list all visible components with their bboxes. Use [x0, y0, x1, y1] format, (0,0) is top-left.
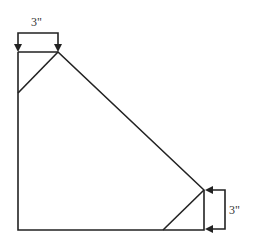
panel-outline	[18, 52, 204, 230]
arrow-left-icon	[205, 225, 213, 233]
top-dimension-label: 3"	[31, 15, 42, 29]
top-left-chamfer-line	[18, 52, 58, 93]
arrow-down-icon	[54, 44, 62, 52]
arrow-down-icon	[14, 44, 22, 52]
bottom-right-chamfer-line	[163, 190, 204, 230]
cut-diagram: 3" 3"	[0, 0, 264, 252]
right-dimension-label: 3"	[229, 203, 240, 217]
arrow-left-icon	[205, 186, 213, 194]
right-dimension-bracket	[211, 190, 225, 229]
top-dimension-bracket	[18, 33, 58, 46]
